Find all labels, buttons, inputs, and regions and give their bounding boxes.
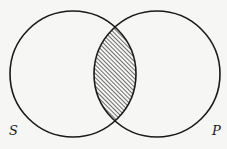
venn-diagram: S P [0, 0, 227, 149]
set-p-label: P [211, 123, 221, 138]
set-s-label: S [9, 123, 18, 138]
